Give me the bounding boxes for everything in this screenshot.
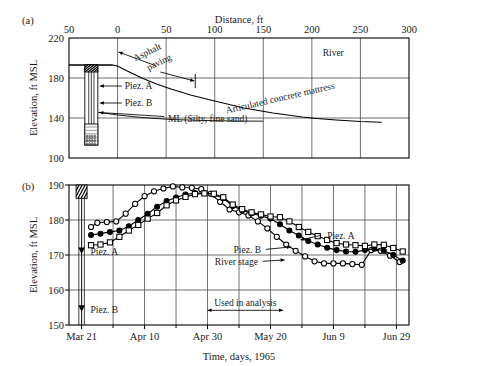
panel-a-y-tick: 140 [48, 113, 64, 124]
piezometer-screen-marker-1 [78, 248, 85, 255]
piez-b-callout-arrow [266, 246, 291, 250]
panel-a-y-tick: 220 [48, 33, 64, 44]
data-point-marker [343, 242, 348, 247]
used-in-analysis-arrow-left [208, 309, 246, 313]
panel-a-piez-b-label: Piez. B [125, 98, 152, 108]
data-point-marker [287, 219, 292, 224]
panel-b-x-tick: Mar 21 [66, 331, 97, 342]
asphalt-extent-arrow-left-head [119, 52, 123, 55]
panel-b-hatch-line [90, 185, 97, 198]
piez-a-pointer-arrow [100, 84, 122, 88]
panel-a-y-tick: 100 [48, 153, 64, 164]
panel-b-y-tick: 170 [48, 250, 64, 261]
panel-a-plot-frame [69, 38, 409, 158]
panel-b-x-tick: Jun 29 [383, 331, 411, 342]
panel-b-hatch-line [69, 185, 76, 198]
data-point-marker [381, 242, 386, 247]
data-point-marker [265, 226, 270, 231]
panel-a-x-tick: 0 [115, 24, 120, 35]
data-point-marker [321, 261, 326, 266]
data-point-marker [104, 220, 109, 225]
data-point-marker [136, 222, 141, 227]
data-point-marker [88, 224, 93, 229]
piezometer-screen-marker-2 [78, 305, 85, 312]
data-point-marker [296, 233, 301, 238]
data-point-marker [274, 234, 279, 239]
data-point-marker [400, 258, 405, 263]
data-point-marker [117, 234, 122, 239]
data-point-marker [107, 240, 112, 245]
asphalt-extent-arrow-right [160, 72, 194, 82]
data-point-marker [277, 222, 282, 227]
river-stage-callout-arrow-head [281, 258, 285, 262]
panel-a-gridlines [69, 38, 409, 158]
data-point-marker [331, 261, 336, 266]
river-stage-callout-arrow [263, 258, 285, 262]
data-point-marker [170, 184, 175, 189]
data-point-marker [296, 224, 301, 229]
data-point-marker [312, 259, 317, 264]
data-point-marker [325, 245, 330, 250]
panel-b-hatch-line [66, 185, 73, 198]
data-point-marker [114, 219, 119, 224]
panel-a-x-tick: 300 [401, 24, 417, 35]
data-point-marker [277, 215, 282, 220]
panel-a-y-tick-labels: 220180140100 [48, 33, 64, 164]
data-point-marker [155, 210, 160, 215]
panel-b-y-tick: 160 [48, 285, 64, 296]
data-point-marker [161, 186, 166, 191]
panel-a-annotations: AsphaltpavingArticulated concrete mattre… [99, 41, 344, 125]
data-point-marker [362, 243, 367, 248]
data-point-marker [98, 231, 103, 236]
panel-b: (b) Time, days, 1965 Elevation, ft MSL M… [22, 180, 410, 362]
used-in-analysis-arrow-right [245, 309, 283, 313]
panel-b-y-axis-title: Elevation, ft MSL [28, 217, 39, 293]
data-point-marker [155, 204, 160, 209]
panel-a: (a) Distance, ft Elevation, ft MSL 50050… [22, 14, 417, 164]
data-point-marker [117, 228, 122, 233]
data-point-marker [145, 211, 150, 216]
figure-svg: (a) Distance, ft Elevation, ft MSL 50050… [0, 0, 478, 366]
data-point-marker [240, 207, 245, 212]
data-point-marker [372, 242, 377, 247]
panel-a-letter: (a) [22, 15, 34, 27]
data-point-marker [145, 216, 150, 221]
panel-b-hatch-line [87, 185, 94, 198]
data-point-marker [142, 194, 147, 199]
data-point-marker [249, 210, 254, 215]
data-point-marker [95, 220, 100, 225]
panel-a-x-tick: 100 [207, 24, 223, 35]
panel-a-x-tick-labels: 50050100150200250300 [64, 24, 417, 35]
soil-label-leader-arrow-head [99, 111, 103, 115]
data-point-marker [255, 219, 260, 224]
borehole-hatch-line [76, 65, 85, 72]
data-point-marker [391, 253, 396, 258]
panel-b-x-tick-labels: Mar 21Apr 10Apr 30May 20Jun 9Jun 29 [66, 325, 410, 342]
data-point-marker [189, 185, 194, 190]
data-point-marker [334, 248, 339, 253]
panel-b-letter: (b) [22, 181, 35, 193]
data-point-marker [303, 254, 308, 259]
panel-a-piez-a-label: Piez. A [125, 81, 153, 91]
data-point-marker [126, 228, 131, 233]
data-point-marker [381, 248, 386, 253]
data-point-marker [350, 262, 355, 267]
panel-b-river-stage-label: River stage [215, 257, 258, 267]
data-point-marker [293, 248, 298, 253]
panel-a-borehole [73, 65, 109, 145]
data-point-marker [89, 233, 94, 238]
panel-b-x-axis-title: Time, days, 1965 [203, 351, 276, 362]
data-point-marker [353, 249, 358, 254]
data-point-marker [211, 191, 216, 196]
piez-b-pointer-arrow [100, 101, 122, 105]
panel-a-y-tick: 180 [48, 73, 64, 84]
panel-a-x-tick: 200 [304, 24, 320, 35]
panel-b-y-tick: 150 [48, 320, 64, 331]
data-point-marker [359, 262, 364, 267]
panel-a-x-tick: 50 [64, 24, 75, 35]
panel-b-screen-piez-a-label: Piez. A [91, 247, 119, 257]
data-point-marker [164, 203, 169, 208]
data-point-marker [306, 239, 311, 244]
piez-a-pointer-arrow-head [100, 84, 104, 88]
data-point-marker [133, 201, 138, 206]
